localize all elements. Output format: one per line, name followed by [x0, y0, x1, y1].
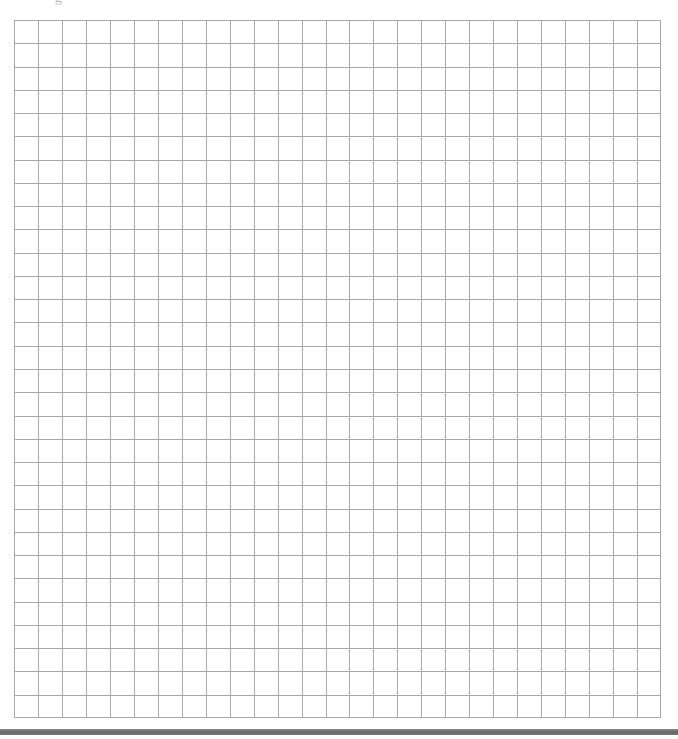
graph-paper-grid [14, 20, 661, 718]
cropped-heading-text: g [55, 0, 62, 5]
bottom-divider-bar [0, 729, 678, 735]
grid-lines [14, 20, 661, 718]
